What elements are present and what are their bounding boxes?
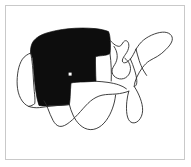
- map-figure: [0, 0, 191, 167]
- highlighted-states-group[interactable]: [30, 28, 110, 106]
- great-lakes-outline: [110, 41, 136, 63]
- southern-plains-border-outline: [96, 81, 126, 89]
- appalachian-border-outline: [130, 59, 136, 86]
- central-plains-border-outline: [110, 54, 111, 82]
- mid-atlantic-outline: [136, 49, 147, 75]
- northeast-coast-outline: [134, 32, 172, 86]
- state-outline-california-group[interactable]: [17, 53, 35, 106]
- state-outline-california[interactable]: [17, 53, 35, 106]
- great-lakes-outline-group: [110, 41, 136, 79]
- southeast-coast-outline: [126, 86, 142, 122]
- northeast-outline-group: [130, 32, 172, 86]
- map-point-marker[interactable]: [69, 73, 72, 76]
- texas-outline: [69, 95, 115, 130]
- us-map[interactable]: [0, 0, 191, 167]
- state-region-northwest-plains[interactable]: [30, 28, 110, 106]
